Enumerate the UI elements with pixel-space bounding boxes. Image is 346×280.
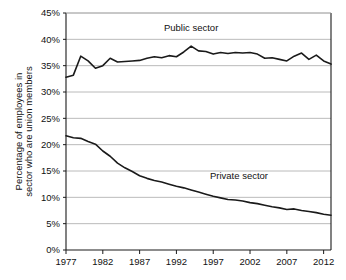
y-tick-label-0: 0% [46,244,60,255]
y-tick-label-20: 20% [41,139,61,150]
union-membership-line-chart: 0%5%10%15%20%25%30%35%40%45% 19771982198… [0,0,346,280]
y-tick-label-5: 5% [46,218,60,229]
series-label-private-sector: Private sector [210,170,268,181]
y-axis-title-line-2: sector who are union members [23,66,34,197]
y-axis-title-group: Percentage of employees insector who are… [13,66,34,197]
x-tick-label-1992: 1992 [166,256,187,267]
y-tick-label-15: 15% [41,165,61,176]
y-tick-label-45: 45% [41,7,61,18]
x-tick-label-1987: 1987 [129,256,150,267]
x-tick-label-1977: 1977 [55,256,76,267]
y-tick-label-30: 30% [41,86,61,97]
x-tick-label-1982: 1982 [92,256,113,267]
y-tick-label-35: 35% [41,60,61,71]
y-tick-label-40: 40% [41,34,61,45]
y-tick-label-10: 10% [41,192,61,203]
x-tick-label-2002: 2002 [239,256,260,267]
x-tick-label-1997: 1997 [203,256,224,267]
y-tick-label-25: 25% [41,113,61,124]
x-tick-label-2007: 2007 [276,256,297,267]
series-label-public-sector: Public sector [164,22,218,33]
x-tick-label-2012: 2012 [313,256,334,267]
chart-container: 0%5%10%15%20%25%30%35%40%45% 19771982198… [0,0,346,280]
